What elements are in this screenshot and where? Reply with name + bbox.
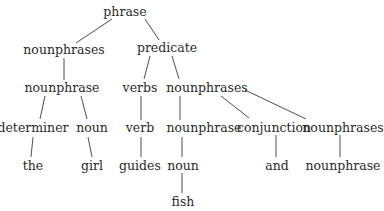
tree-edge	[88, 137, 92, 157]
tree-node-verbs: verbs	[123, 82, 158, 95]
tree-node-phrase: phrase	[103, 6, 146, 19]
tree-edge	[172, 56, 179, 79]
tree-node-guides: guides	[119, 160, 161, 173]
tree-node-nounphrase: nounphrase	[25, 82, 100, 95]
tree-node-verb: verb	[126, 122, 154, 135]
tree-node-noun: noun	[76, 122, 108, 135]
tree-node-conjunction: conjunction	[237, 122, 311, 135]
tree-edge	[81, 96, 87, 119]
tree-edge	[40, 96, 45, 119]
tree-edge	[145, 19, 159, 40]
tree-node-nounphrase: nounphrase	[306, 160, 381, 173]
tree-node-nounphrases: nounphrases	[302, 122, 383, 135]
tree-node-determiner: determiner	[0, 122, 69, 135]
tree-node-girl: girl	[81, 160, 103, 173]
tree-node-and: and	[265, 160, 289, 173]
tree-edge	[245, 90, 306, 119]
tree-node-predicate: predicate	[137, 42, 197, 55]
tree-node-nounphrases: nounphrases	[23, 44, 104, 57]
tree-node-nounphrases: nounphrases	[166, 82, 247, 95]
tree-edge	[31, 137, 33, 157]
tree-node-nounphrase: nounphrase	[167, 122, 242, 135]
tree-edge	[76, 19, 112, 43]
tree-node-fish: fish	[172, 196, 195, 209]
tree-edge	[144, 56, 150, 79]
tree-edge	[221, 96, 249, 118]
tree-node-noun: noun	[167, 160, 199, 173]
tree-node-the: the	[23, 160, 43, 173]
